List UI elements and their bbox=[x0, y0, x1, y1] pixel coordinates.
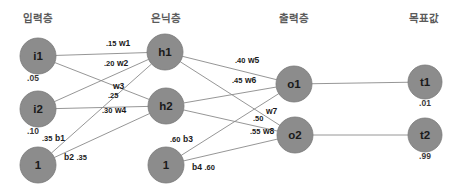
node-o2[interactable]: o2 bbox=[277, 117, 313, 153]
input-layer-title: 입력층 bbox=[23, 12, 53, 24]
node-h2[interactable]: h2 bbox=[148, 88, 184, 124]
edge-weight-label-w6: .45w6 bbox=[232, 75, 257, 85]
node-bias1[interactable]: 1 bbox=[20, 147, 56, 183]
node-label-h1: h1 bbox=[158, 46, 172, 58]
edge-i2-h1 bbox=[54, 59, 148, 101]
node-label-h2: h2 bbox=[159, 100, 172, 112]
edge-i1-h2 bbox=[55, 63, 149, 100]
node-label-o1: o1 bbox=[287, 78, 301, 90]
edge-bias1-h2 bbox=[54, 114, 149, 158]
node-value-i2: .10 bbox=[27, 126, 39, 136]
hidden-layer-title: 은닉층 bbox=[151, 12, 181, 24]
edge-weight-label-b3: .60b3 bbox=[170, 134, 193, 144]
edge-weight-label-w5: .40w5 bbox=[235, 55, 260, 65]
edge-weight-label-b4: b4.60 bbox=[192, 162, 215, 172]
node-bias2[interactable]: 1 bbox=[148, 147, 184, 183]
edge-weight-label-w4: .30w4 bbox=[102, 105, 127, 115]
neural-network-canvas: .05i1.10i21h1h21o1o2.01t1.99t2 .15w1.20w… bbox=[0, 0, 464, 194]
node-i2[interactable]: i2 bbox=[20, 91, 56, 127]
edge-h1-o1 bbox=[182, 56, 276, 79]
edge-h2-o1 bbox=[184, 87, 277, 103]
edge-weight-label-w2: .20w2 bbox=[104, 58, 129, 68]
output-layer-title: 출력층 bbox=[279, 12, 309, 24]
edge-weight-label-b1: .35b1 bbox=[42, 133, 65, 143]
node-value-t1: .01 bbox=[419, 98, 431, 108]
edge-weight-label-w8: .55w8 bbox=[250, 126, 275, 136]
edge-weight-value-w7: .50 bbox=[253, 114, 263, 123]
node-label-i2: i2 bbox=[33, 103, 43, 115]
edge-weight-value-w3: .25 bbox=[108, 91, 118, 100]
node-t1[interactable]: t1 bbox=[408, 65, 442, 99]
edge-h1-o2 bbox=[180, 62, 280, 126]
edge-weight-label-w1: .15w1 bbox=[106, 38, 131, 48]
node-label-i1: i1 bbox=[33, 50, 43, 62]
node-t2[interactable]: t2 bbox=[408, 118, 442, 152]
node-value-i1: .05 bbox=[27, 73, 39, 83]
edge-weight-name-w3: w3 bbox=[112, 81, 125, 91]
layer-titles-group: 입력층은닉층출력층목표값 bbox=[23, 12, 439, 24]
node-label-t1: t1 bbox=[420, 76, 431, 88]
node-label-t2: t2 bbox=[420, 129, 430, 141]
node-value-t2: .99 bbox=[419, 151, 431, 161]
edge-bias2-o2 bbox=[184, 139, 278, 161]
node-label-o2: o2 bbox=[288, 129, 301, 141]
edge-weight-name-w7: w7 bbox=[265, 106, 278, 116]
node-label-bias2: 1 bbox=[163, 159, 170, 171]
edge-weight-label-b2: b2.35 bbox=[64, 152, 87, 162]
edge-bias2-o1 bbox=[181, 94, 279, 156]
neural-network-diagram: .05i1.10i21h1h21o1o2.01t1.99t2 .15w1.20w… bbox=[0, 0, 464, 194]
node-i1[interactable]: i1 bbox=[20, 38, 56, 74]
edge-o1-t1 bbox=[312, 82, 408, 83]
edge-i1-h1 bbox=[56, 53, 147, 56]
node-o1[interactable]: o1 bbox=[276, 66, 312, 102]
node-label-bias1: 1 bbox=[35, 159, 42, 171]
target-layer-title: 목표값 bbox=[409, 12, 439, 24]
node-h1[interactable]: h1 bbox=[147, 34, 183, 70]
